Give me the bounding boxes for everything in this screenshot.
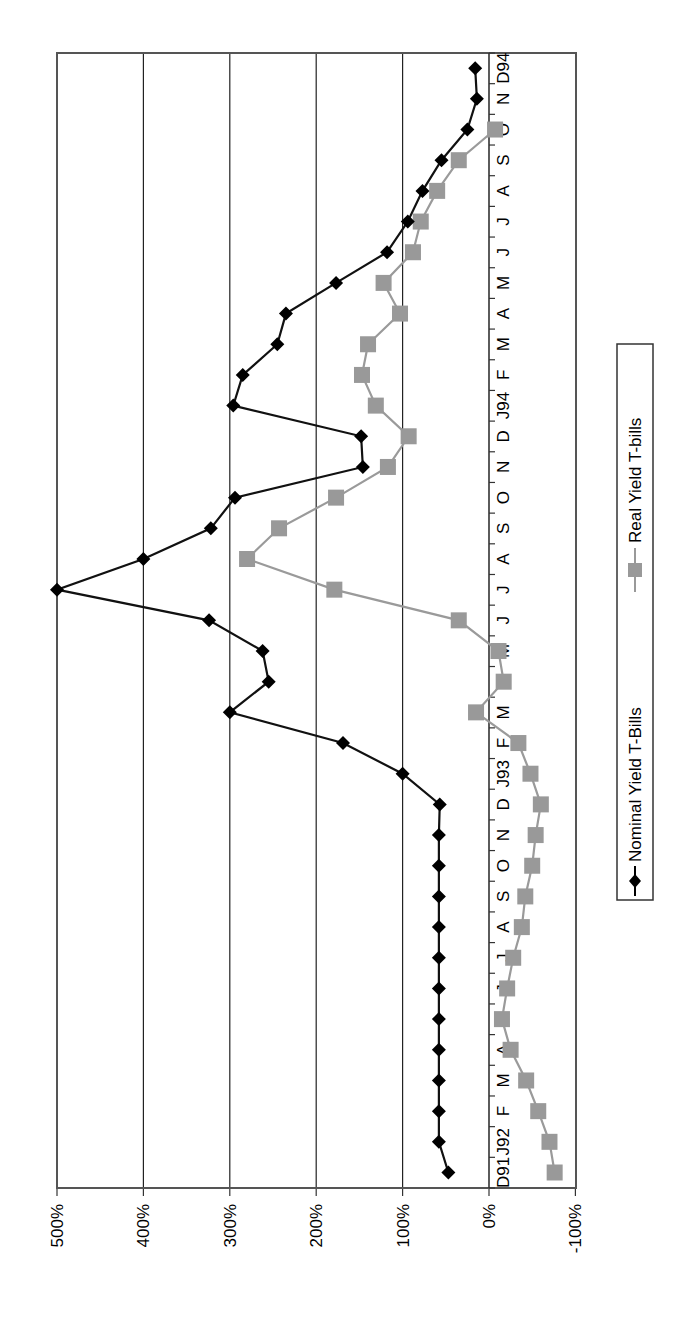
square-marker-icon <box>522 766 538 782</box>
square-marker-icon <box>326 582 342 598</box>
square-marker-icon <box>491 643 507 659</box>
square-marker-icon <box>405 244 421 260</box>
diamond-marker-icon <box>432 1135 446 1149</box>
legend: Nominal Yield T-Bills Real Yield T-bills <box>617 344 653 900</box>
category-label: D91 <box>494 1157 513 1188</box>
category-label: J92 <box>494 1128 513 1155</box>
category-label: J93 <box>494 760 513 787</box>
square-marker-icon <box>514 919 530 935</box>
square-marker-icon <box>533 796 549 812</box>
diamond-marker-icon <box>432 1104 446 1118</box>
chart: D91J92FMAMJJASONDJ93FMAMJJASONDJ94FMAMJJ… <box>0 0 674 1336</box>
category-label: J <box>494 616 513 625</box>
diamond-marker-icon <box>136 552 150 566</box>
category-label: J <box>494 248 513 257</box>
diamond-marker-icon <box>256 644 270 658</box>
square-marker-icon <box>376 275 392 291</box>
diamond-marker-icon <box>432 951 446 965</box>
series-line <box>57 68 477 1172</box>
square-marker-icon <box>468 704 484 720</box>
category-label: D94 <box>494 53 513 84</box>
value-tick-label: 100% <box>394 1204 413 1247</box>
diamond-marker-icon <box>380 245 394 259</box>
category-label: S <box>494 155 513 166</box>
square-marker-icon <box>429 183 445 199</box>
category-label: O <box>494 859 513 872</box>
value-tick-label: 200% <box>307 1204 326 1247</box>
category-label: J94 <box>494 392 513 419</box>
square-marker-icon <box>541 1134 557 1150</box>
diamond-marker-icon <box>432 828 446 842</box>
category-label: S <box>494 891 513 902</box>
diamond-marker-icon <box>50 583 64 597</box>
diamond-marker-icon <box>329 276 343 290</box>
legend-label-real: Real Yield T-bills <box>626 418 645 543</box>
value-tick-label: -100% <box>566 1204 585 1253</box>
diamond-marker-icon <box>432 981 446 995</box>
square-marker-icon <box>413 214 429 230</box>
square-marker-icon <box>518 1072 534 1088</box>
category-label: M <box>494 705 513 719</box>
diamond-marker-icon <box>432 1073 446 1087</box>
category-label: A <box>494 553 513 565</box>
value-tick-label: 0% <box>480 1204 499 1229</box>
square-marker-icon <box>392 306 408 322</box>
category-label: A <box>494 921 513 933</box>
diamond-marker-icon <box>279 307 293 321</box>
value-tick-label: 400% <box>134 1204 153 1247</box>
category-label: D <box>494 430 513 442</box>
category-label: M <box>494 337 513 351</box>
square-marker-icon <box>496 674 512 690</box>
square-marker-icon <box>368 398 384 414</box>
square-marker-icon <box>494 1011 510 1027</box>
square-marker-icon <box>401 428 417 444</box>
square-marker-icon <box>328 490 344 506</box>
category-label: O <box>494 491 513 504</box>
category-label: F <box>494 1106 513 1116</box>
category-label: J <box>494 585 513 594</box>
diamond-marker-icon <box>470 92 484 106</box>
value-axis-labels: -100%0%100%200%300%400%500% <box>48 1204 585 1253</box>
category-label: F <box>494 370 513 380</box>
series-real-yield <box>239 122 563 1181</box>
square-marker-icon <box>451 612 467 628</box>
square-marker-icon <box>499 980 515 996</box>
category-label: N <box>494 829 513 841</box>
category-label: N <box>494 461 513 473</box>
value-tick-label: 300% <box>221 1204 240 1247</box>
diamond-marker-icon <box>432 1012 446 1026</box>
category-label: M <box>494 276 513 290</box>
square-marker-icon <box>517 888 533 904</box>
diamond-marker-icon <box>336 736 350 750</box>
diamond-marker-icon <box>415 184 429 198</box>
square-marker-icon <box>503 1042 519 1058</box>
square-marker-icon <box>239 551 255 567</box>
value-tick-label: 500% <box>48 1204 67 1247</box>
diamond-marker-icon <box>441 1166 455 1180</box>
category-label: A <box>494 185 513 197</box>
diamond-marker-icon <box>356 460 370 474</box>
square-marker-icon <box>360 336 376 352</box>
diamond-marker-icon <box>354 429 368 443</box>
square-marker-icon <box>628 563 642 577</box>
square-marker-icon <box>524 858 540 874</box>
diamond-marker-icon <box>432 859 446 873</box>
square-marker-icon <box>354 367 370 383</box>
category-label: M <box>494 1073 513 1087</box>
category-label: A <box>494 307 513 319</box>
category-label: J <box>494 217 513 226</box>
diamond-marker-icon <box>226 399 240 413</box>
diamond-marker-icon <box>432 920 446 934</box>
square-marker-icon <box>487 122 503 138</box>
square-marker-icon <box>530 1103 546 1119</box>
square-marker-icon <box>505 950 521 966</box>
diamond-marker-icon <box>468 61 482 75</box>
square-marker-icon <box>451 152 467 168</box>
category-label: S <box>494 523 513 534</box>
square-marker-icon <box>380 459 396 475</box>
square-marker-icon <box>528 827 544 843</box>
diamond-marker-icon <box>432 1043 446 1057</box>
legend-label-nominal: Nominal Yield T-Bills <box>626 707 645 862</box>
category-label: N <box>494 93 513 105</box>
square-marker-icon <box>547 1165 563 1181</box>
